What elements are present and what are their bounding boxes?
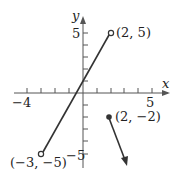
x-max-label: 5 bbox=[146, 95, 154, 110]
x-min-label: −4 bbox=[12, 95, 31, 110]
point-label-bottom: (−3, −5) bbox=[10, 155, 67, 170]
point-label-top: (2, 5) bbox=[116, 25, 151, 40]
x-ticks bbox=[27, 88, 152, 93]
x-axis: x −4 5 bbox=[12, 76, 170, 110]
x-axis-label: x bbox=[162, 76, 170, 91]
y-axis-label: y bbox=[71, 8, 80, 23]
y-max-label: 5 bbox=[72, 26, 80, 41]
y-min-label: −5 bbox=[66, 148, 85, 163]
open-endpoint-icon bbox=[108, 30, 113, 35]
closed-endpoint-icon bbox=[106, 114, 112, 120]
ray-arrow-icon bbox=[121, 156, 128, 166]
y-axis-arrow-icon bbox=[80, 16, 86, 24]
function-graph: x −4 5 y 5 −5 (2, 5) bbox=[0, 0, 182, 181]
point-label-mid: (2, −2) bbox=[115, 109, 161, 124]
